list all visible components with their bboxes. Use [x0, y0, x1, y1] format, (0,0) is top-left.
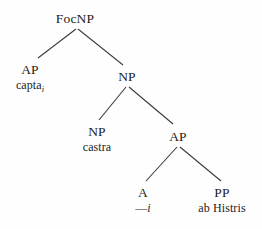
branch-np-to-np: [99, 87, 126, 120]
index-subscript-i: i: [42, 85, 44, 95]
branch-ap-to-a: [146, 147, 177, 181]
node-np-mid: NP: [118, 70, 136, 84]
node-pp-leaf: PP ab Histris: [198, 186, 245, 215]
node-ap-top: AP captai: [16, 63, 44, 94]
branch-root-to-ap: [38, 29, 76, 58]
branch-np-to-ap: [129, 87, 173, 124]
branch-ap-to-pp: [180, 147, 221, 181]
branch-root-to-np: [78, 29, 123, 65]
syntax-tree-figure: FocNP AP captai NP NP castra AP A —i PP …: [0, 0, 262, 229]
node-np-low-gloss: castra: [83, 141, 112, 154]
node-a-leaf-gloss: —i: [135, 202, 150, 215]
node-pp-leaf-label: PP: [198, 186, 245, 200]
node-focnp-label: FocNP: [56, 12, 95, 26]
node-a-leaf: A —i: [135, 186, 150, 215]
node-ap-top-label: AP: [16, 63, 44, 77]
node-ap-low-label: AP: [169, 130, 187, 144]
node-np-low: NP castra: [83, 125, 112, 154]
node-a-leaf-label: A: [135, 186, 150, 200]
node-ap-low: AP: [169, 130, 187, 144]
node-np-mid-label: NP: [118, 70, 136, 84]
node-pp-leaf-gloss: ab Histris: [198, 202, 245, 215]
trace-index-i: i: [147, 201, 150, 215]
node-ap-top-gloss: captai: [16, 79, 44, 94]
node-np-low-label: NP: [83, 125, 112, 139]
trace-dash: —: [135, 201, 147, 215]
node-focnp: FocNP: [56, 12, 95, 26]
